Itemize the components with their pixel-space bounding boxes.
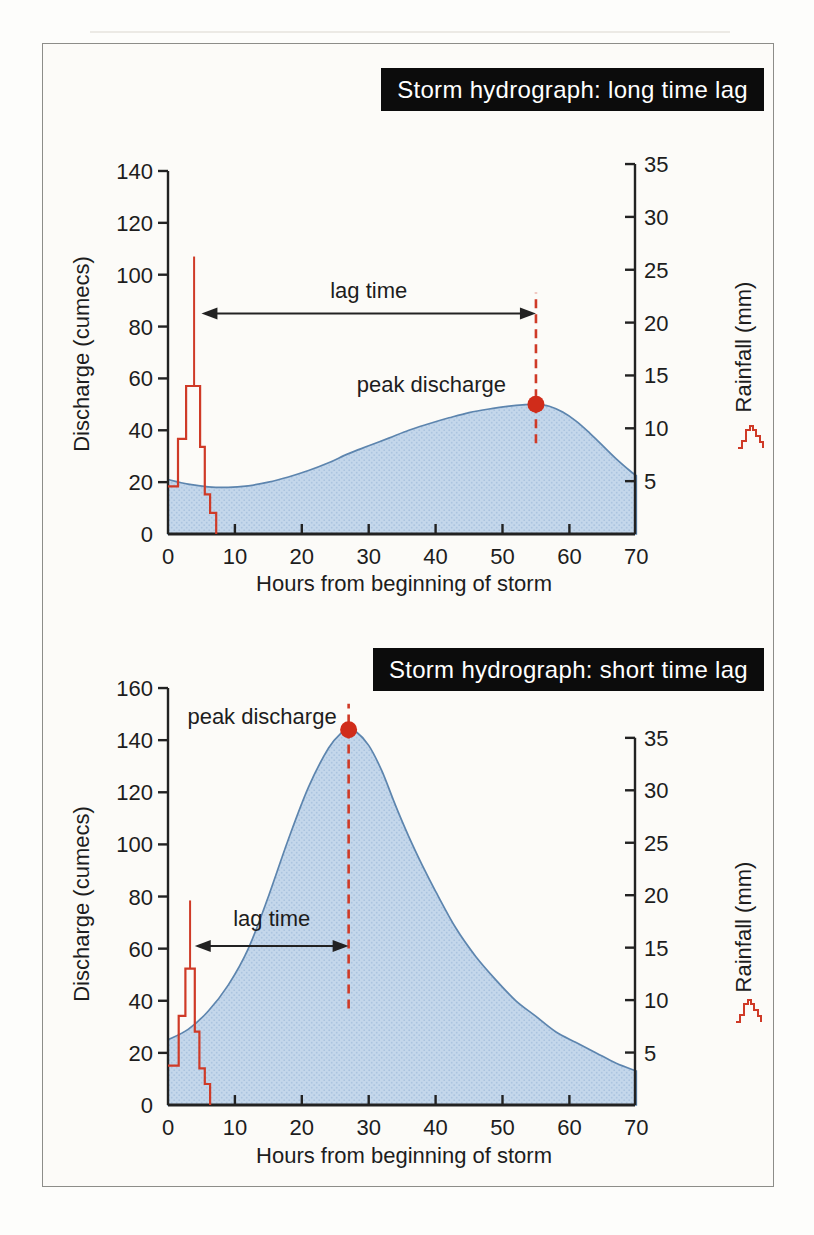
y-tick-label: 40 bbox=[129, 418, 153, 443]
chart-plot-area: 0102030405060700204060801001201405101520… bbox=[116, 152, 668, 569]
x-tick-label: 70 bbox=[624, 544, 648, 569]
y2-tick-label: 25 bbox=[644, 258, 668, 283]
x-tick-label: 30 bbox=[356, 544, 380, 569]
x-tick-label: 20 bbox=[290, 1115, 314, 1140]
rainfall-legend-icon bbox=[736, 1000, 761, 1022]
y-tick-label: 120 bbox=[116, 780, 153, 805]
x-tick-label: 40 bbox=[423, 1115, 447, 1140]
y-tick-label: 20 bbox=[129, 1041, 153, 1066]
x-tick-label: 20 bbox=[290, 544, 314, 569]
x-tick-label: 60 bbox=[557, 544, 581, 569]
y-axis-title-discharge: Discharge (cumecs) bbox=[69, 256, 94, 452]
y2-tick-label: 30 bbox=[644, 205, 668, 230]
y-tick-label: 100 bbox=[116, 832, 153, 857]
y-tick-label: 100 bbox=[116, 263, 153, 288]
peak-discharge-dot bbox=[527, 396, 544, 413]
hydrograph-long-lag-chart: 0102030405060700204060801001201405101520… bbox=[43, 44, 775, 604]
rainfall-legend-icon bbox=[738, 426, 763, 448]
scan-artifact-line bbox=[90, 31, 730, 33]
figure-frame: Storm hydrograph: long time lag 01020304… bbox=[42, 43, 774, 1187]
x-tick-label: 0 bbox=[162, 1115, 174, 1140]
y2-tick-label: 10 bbox=[644, 416, 668, 441]
y2-tick-label: 5 bbox=[644, 1041, 656, 1066]
lag-time-label: lag time bbox=[330, 278, 407, 303]
y-tick-label: 60 bbox=[129, 937, 153, 962]
y2-tick-label: 20 bbox=[644, 311, 668, 336]
x-tick-label: 0 bbox=[162, 544, 174, 569]
y2-tick-label: 35 bbox=[644, 726, 668, 751]
y2-tick-label: 15 bbox=[644, 936, 668, 961]
y2-tick-label: 15 bbox=[644, 363, 668, 388]
y2-tick-label: 20 bbox=[644, 883, 668, 908]
x-axis-title: Hours from beginning of storm bbox=[256, 1143, 552, 1168]
hydrograph-area bbox=[168, 404, 636, 534]
lag-arrowhead-left bbox=[195, 940, 211, 952]
y2-axis-title-rainfall: Rainfall (mm) bbox=[731, 282, 756, 413]
x-tick-label: 10 bbox=[223, 1115, 247, 1140]
y2-tick-label: 25 bbox=[644, 831, 668, 856]
y-tick-label: 120 bbox=[116, 211, 153, 236]
x-tick-label: 70 bbox=[624, 1115, 648, 1140]
peak-discharge-dot bbox=[340, 721, 357, 738]
lag-arrowhead-left bbox=[201, 308, 217, 320]
y-tick-label: 40 bbox=[129, 989, 153, 1014]
hydrograph-short-lag-chart: 0102030405060700204060801001201401605101… bbox=[43, 604, 775, 1188]
y-tick-label: 140 bbox=[116, 728, 153, 753]
y-tick-label: 80 bbox=[129, 315, 153, 340]
y-tick-label: 140 bbox=[116, 159, 153, 184]
x-tick-label: 60 bbox=[557, 1115, 581, 1140]
x-tick-label: 50 bbox=[490, 1115, 514, 1140]
y2-axis-title-rainfall: Rainfall (mm) bbox=[731, 862, 756, 993]
x-tick-label: 30 bbox=[356, 1115, 380, 1140]
lag-arrowhead-right bbox=[520, 308, 536, 320]
x-tick-label: 10 bbox=[223, 544, 247, 569]
y-axis-title-discharge: Discharge (cumecs) bbox=[69, 806, 94, 1002]
y2-tick-label: 35 bbox=[644, 152, 668, 177]
peak-discharge-label: peak discharge bbox=[187, 704, 336, 729]
y-tick-label: 80 bbox=[129, 885, 153, 910]
y2-tick-label: 30 bbox=[644, 778, 668, 803]
lag-time-label: lag time bbox=[233, 906, 310, 931]
x-tick-label: 50 bbox=[490, 544, 514, 569]
x-axis-title: Hours from beginning of storm bbox=[256, 571, 552, 596]
y-tick-label: 60 bbox=[129, 366, 153, 391]
y2-tick-label: 5 bbox=[644, 469, 656, 494]
y2-tick-label: 10 bbox=[644, 988, 668, 1013]
y-tick-label: 20 bbox=[129, 470, 153, 495]
y-tick-label: 160 bbox=[116, 676, 153, 701]
chart-plot-area: 0102030405060700204060801001201401605101… bbox=[116, 676, 668, 1140]
y-tick-label: 0 bbox=[141, 1093, 153, 1118]
x-tick-label: 40 bbox=[423, 544, 447, 569]
peak-discharge-label: peak discharge bbox=[357, 372, 506, 397]
y-tick-label: 0 bbox=[141, 522, 153, 547]
